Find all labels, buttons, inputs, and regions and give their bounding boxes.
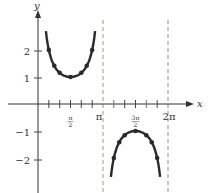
x-axis-label: x xyxy=(197,98,203,109)
data-point xyxy=(84,64,89,69)
tick-label-3pi-half-num: 3π xyxy=(132,114,140,121)
tick-label-pi-half-num: π xyxy=(69,114,73,121)
csc-curve-lower xyxy=(111,131,160,177)
csc-curve-upper xyxy=(46,31,95,77)
data-point xyxy=(90,48,95,53)
data-point xyxy=(117,140,122,145)
data-point xyxy=(155,156,160,161)
data-point xyxy=(79,71,84,76)
data-point xyxy=(122,133,127,138)
data-point xyxy=(68,75,73,80)
tick-label-pi: π xyxy=(96,111,103,122)
data-point xyxy=(57,71,62,76)
tick-label-ym2: −2 xyxy=(15,155,30,166)
data-point xyxy=(47,48,52,53)
data-point xyxy=(144,133,149,138)
csc-graph: x y π 2 π 3π 2 2π 2 1 −1 −2 xyxy=(0,0,210,193)
y-axis-arrow-icon xyxy=(35,10,41,18)
data-point xyxy=(112,156,117,161)
x-axis-arrow-icon xyxy=(186,101,194,107)
tick-label-ym1: −1 xyxy=(15,127,30,138)
tick-label-y2: 2 xyxy=(24,46,30,57)
y-axis-label: y xyxy=(33,0,40,11)
tick-label-y1: 1 xyxy=(24,73,30,84)
tick-label-3pi-half-den: 2 xyxy=(134,121,138,128)
tick-label-pi-half-den: 2 xyxy=(69,121,73,128)
data-point xyxy=(52,64,57,69)
tick-label-2pi: 2π xyxy=(163,111,176,122)
data-point xyxy=(133,129,138,134)
data-point xyxy=(149,140,154,145)
